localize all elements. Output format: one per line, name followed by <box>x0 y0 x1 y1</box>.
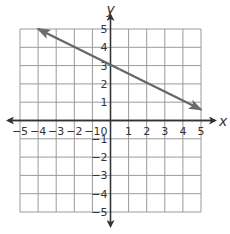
y-tick-label: 1 <box>101 96 108 109</box>
x-tick-label: −3 <box>48 125 64 138</box>
y-tick-label: −2 <box>91 151 107 164</box>
y-tick-label: 5 <box>101 23 108 36</box>
line-segment-right <box>120 69 201 109</box>
x-tick-label: 4 <box>179 125 186 138</box>
y-tick-label: −5 <box>91 206 107 219</box>
y-tick-label: −4 <box>91 188 107 201</box>
y-tick-label: −3 <box>91 169 107 182</box>
x-tick-label: −2 <box>66 125 82 138</box>
y-tick-label: 2 <box>101 78 108 91</box>
data-line <box>38 29 201 110</box>
coordinate-plane: −5−4−3−2−11234554321−1−2−3−4−50 x y <box>0 0 230 234</box>
x-tick-label: 1 <box>125 125 132 138</box>
origin-label: 0 <box>101 125 108 138</box>
x-tick-label: 3 <box>161 125 168 138</box>
x-tick-label: 2 <box>143 125 150 138</box>
x-tick-label: −4 <box>30 125 46 138</box>
x-tick-label: −5 <box>12 125 28 138</box>
y-tick-label: 4 <box>101 41 108 54</box>
x-axis-label: x <box>218 113 228 129</box>
x-tick-label: 5 <box>198 125 205 138</box>
axes <box>8 15 215 226</box>
y-axis-label: y <box>106 1 116 17</box>
